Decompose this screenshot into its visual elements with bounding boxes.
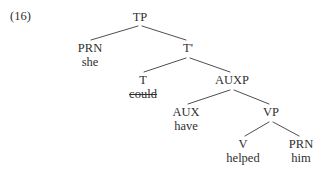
- node-label-tbar: T': [183, 42, 193, 55]
- tree-branch-tbar-to-auxp: [190, 58, 230, 72]
- syntax-tree-figure: (16) TPPRNsheT'TcouldAUXPAUXhaveVPVhelpe…: [0, 0, 330, 173]
- node-word-prn2: him: [289, 152, 313, 165]
- node-label-prn1: PRN: [78, 42, 102, 55]
- tree-node-tp: TP: [133, 11, 148, 24]
- node-label-prn2: PRN: [289, 138, 313, 151]
- tree-branch-auxp-to-aux: [188, 90, 230, 104]
- node-word-t: could: [129, 88, 157, 101]
- tree-node-prn1: PRNshe: [78, 42, 102, 69]
- tree-branch-auxp-to-vp: [234, 90, 269, 104]
- tree-node-tbar: T': [183, 42, 193, 55]
- tree-node-v: Vhelped: [226, 138, 259, 165]
- node-label-tp: TP: [133, 11, 148, 24]
- tree-branch-vp-to-v: [245, 122, 269, 136]
- tree-node-vp: VP: [263, 106, 279, 119]
- tree-node-t: Tcould: [129, 74, 157, 101]
- tree-node-aux: AUXhave: [172, 106, 199, 133]
- node-label-t: T: [129, 74, 157, 87]
- tree-branch-tp-to-prn1: [91, 26, 138, 40]
- tree-branch-vp-to-prn2: [273, 122, 299, 136]
- node-word-aux: have: [172, 120, 199, 133]
- node-label-auxp: AUXP: [215, 74, 249, 87]
- example-number: (16): [10, 9, 31, 23]
- node-label-aux: AUX: [172, 106, 199, 119]
- tree-branch-tp-to-tbar: [142, 26, 186, 40]
- tree-branch-lines: [0, 0, 330, 173]
- node-label-v: V: [226, 138, 259, 151]
- tree-branch-tbar-to-t: [144, 58, 186, 72]
- tree-node-auxp: AUXP: [215, 74, 249, 87]
- tree-node-prn2: PRNhim: [289, 138, 313, 165]
- node-word-prn1: she: [78, 56, 102, 69]
- node-label-vp: VP: [263, 106, 279, 119]
- node-word-v: helped: [226, 152, 259, 165]
